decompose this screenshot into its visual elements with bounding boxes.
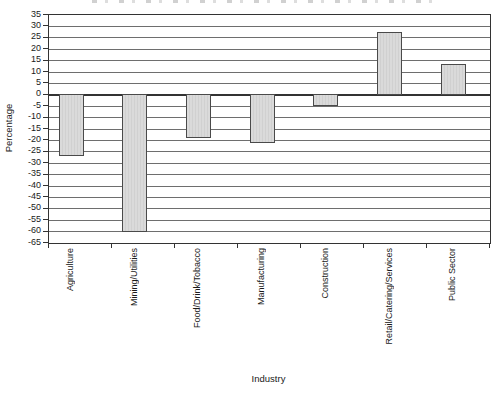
x-category-label-construction: Construction <box>319 248 331 299</box>
bar-retail-catering-services <box>377 32 402 95</box>
y-tick-mark <box>43 219 48 220</box>
y-tick-mark <box>43 71 48 72</box>
y-tick-mark <box>43 231 48 232</box>
x-category-label-food-drink-tobacco: Food/Drink/Tobacco <box>191 248 203 328</box>
y-tick-mark <box>43 151 48 152</box>
y-tick-mark <box>43 25 48 26</box>
gridline-30 <box>49 26 490 27</box>
gridline--30 <box>49 163 490 164</box>
x-category-label-agriculture: Agriculture <box>64 248 76 291</box>
bar-food-drink-tobacco <box>186 94 211 138</box>
y-tick-mark <box>43 82 48 83</box>
y-tick-mark <box>43 196 48 197</box>
x-tick-mark <box>300 244 301 248</box>
y-tick-label--55: -55 <box>11 215 41 224</box>
y-tick-label-0: 0 <box>11 89 41 98</box>
gridline--35 <box>49 174 490 175</box>
x-tick-mark <box>111 244 112 248</box>
y-tick-mark <box>43 117 48 118</box>
y-tick-label--10: -10 <box>11 112 41 121</box>
y-tick-label--15: -15 <box>11 124 41 133</box>
gridline-5 <box>49 83 490 84</box>
gridline-25 <box>49 37 490 38</box>
x-category-label-retail-catering-services: Retail/Catering/Services <box>383 248 395 345</box>
cropped-title-artifact <box>92 0 432 3</box>
bar-manufacturing <box>250 94 275 143</box>
y-tick-mark <box>43 48 48 49</box>
y-tick-label-10: 10 <box>11 67 41 76</box>
bar-mining-utilities <box>122 94 147 232</box>
y-tick-label--5: -5 <box>11 101 41 110</box>
y-tick-label--20: -20 <box>11 135 41 144</box>
gridline--45 <box>49 197 490 198</box>
bar-public-sector <box>441 64 466 95</box>
y-tick-mark <box>43 14 48 15</box>
gridline-15 <box>49 60 490 61</box>
y-tick-label-15: 15 <box>11 55 41 64</box>
y-tick-mark <box>43 37 48 38</box>
y-tick-label-5: 5 <box>11 78 41 87</box>
x-tick-mark <box>237 244 238 248</box>
y-tick-mark <box>43 60 48 61</box>
y-tick-mark <box>43 185 48 186</box>
y-tick-label--50: -50 <box>11 203 41 212</box>
bar-construction <box>313 94 338 106</box>
gridline--60 <box>49 231 490 232</box>
y-tick-label-25: 25 <box>11 32 41 41</box>
gridline--50 <box>49 208 490 209</box>
x-category-label-mining-utilities: Mining/Utilities <box>128 248 140 306</box>
x-tick-mark <box>48 244 49 248</box>
x-axis-title: Industry <box>48 373 489 384</box>
y-tick-label--45: -45 <box>11 192 41 201</box>
y-tick-mark <box>43 208 48 209</box>
x-tick-mark <box>363 244 364 248</box>
y-tick-mark <box>43 128 48 129</box>
y-tick-label--35: -35 <box>11 169 41 178</box>
y-tick-mark <box>43 105 48 106</box>
bar-chart-figure: Percentage Industry 35302520151050-5-10-… <box>0 0 495 395</box>
plot-area <box>48 14 491 244</box>
x-tick-mark <box>426 244 427 248</box>
x-category-label-manufacturing: Manufacturing <box>255 248 267 305</box>
y-tick-label-20: 20 <box>11 44 41 53</box>
y-tick-label--40: -40 <box>11 181 41 190</box>
y-tick-mark <box>43 242 48 243</box>
gridline-10 <box>49 72 490 73</box>
gridline--25 <box>49 151 490 152</box>
x-tick-mark <box>489 244 490 248</box>
x-tick-mark <box>174 244 175 248</box>
gridline-20 <box>49 49 490 50</box>
y-tick-label--65: -65 <box>11 238 41 247</box>
gridline--55 <box>49 220 490 221</box>
gridline--40 <box>49 186 490 187</box>
y-tick-label--30: -30 <box>11 158 41 167</box>
y-tick-mark <box>43 139 48 140</box>
y-tick-label-30: 30 <box>11 21 41 30</box>
y-tick-mark <box>43 174 48 175</box>
bar-agriculture <box>59 94 84 157</box>
y-tick-label-35: 35 <box>11 10 41 19</box>
y-tick-mark <box>43 162 48 163</box>
x-category-label-public-sector: Public Sector <box>446 248 458 301</box>
y-tick-label--25: -25 <box>11 146 41 155</box>
y-tick-label--60: -60 <box>11 226 41 235</box>
y-tick-mark <box>43 94 48 95</box>
